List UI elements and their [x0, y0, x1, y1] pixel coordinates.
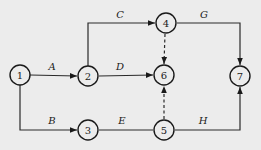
- node-2-label: 2: [85, 71, 91, 82]
- edge-label-g: G: [200, 9, 208, 20]
- edge-d: [99, 75, 153, 76]
- edge-g: [177, 23, 240, 65]
- node-4-label: 4: [163, 18, 169, 29]
- edge-a: [30, 75, 77, 76]
- edge-label-e: E: [117, 115, 126, 126]
- node-7: 7: [230, 66, 250, 86]
- node-6: 6: [154, 65, 174, 85]
- node-7-label: 7: [237, 71, 243, 82]
- network-diagram: A B C D E G H 1 2: [0, 0, 261, 150]
- node-1: 1: [10, 65, 30, 85]
- node-5-label: 5: [161, 125, 167, 136]
- edge-h: [175, 87, 240, 130]
- edge-label-b: B: [47, 115, 55, 126]
- node-3: 3: [78, 120, 98, 140]
- dummy-edge-4-6: [164, 34, 165, 64]
- node-4: 4: [156, 13, 176, 33]
- edge-label-a: A: [47, 61, 55, 72]
- edge-label-h: H: [198, 115, 208, 126]
- edge-c: [88, 23, 155, 66]
- node-2: 2: [78, 66, 98, 86]
- diagram-canvas: A B C D E G H 1 2: [0, 0, 261, 150]
- node-5: 5: [154, 120, 174, 140]
- edge-label-d: D: [115, 61, 124, 72]
- edge-label-c: C: [116, 9, 124, 20]
- node-3-label: 3: [85, 125, 91, 136]
- node-1-label: 1: [17, 70, 23, 81]
- node-6-label: 6: [161, 70, 167, 81]
